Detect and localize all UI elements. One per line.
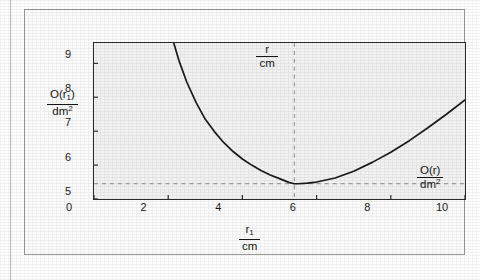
- minimum-y-annotation-denominator: dm2: [417, 177, 443, 190]
- y-axis-tick-label: 6: [51, 151, 71, 163]
- x-axis-tick-marks: [94, 195, 465, 199]
- y-axis-tick-marks: [94, 63, 98, 199]
- x-axis-label: r1 cm: [239, 223, 260, 252]
- x-axis-tick-label: 8: [358, 201, 376, 213]
- plot-area: [93, 42, 466, 200]
- figure-container: 56789 0246810 O(r1) dm2 r1 cm r cm O(r) …: [24, 9, 465, 255]
- y-axis-tick-label: 7: [51, 116, 71, 128]
- x-axis-tick-label: 4: [209, 201, 227, 213]
- y-axis-tick-label: 9: [51, 48, 71, 60]
- chart-canvas: [94, 43, 465, 199]
- page-margin-rule: [10, 0, 11, 280]
- y-axis-label-numerator: O(r1): [47, 88, 78, 103]
- x-axis-label-numerator: r1: [239, 223, 260, 238]
- y-axis-tick-label: 5: [51, 185, 71, 197]
- minimum-y-annotation-numerator: O(r): [417, 164, 443, 176]
- x-axis-label-denominator: cm: [239, 239, 260, 252]
- x-axis-tick-label: 6: [284, 201, 302, 213]
- minimum-y-annotation-label: O(r) dm2: [417, 164, 443, 191]
- x-axis-tick-label: 10: [433, 201, 451, 213]
- x-axis-tick-label: 0: [60, 201, 78, 213]
- y-axis-label-denominator: dm2: [47, 104, 78, 117]
- y-axis-label: O(r1) dm2: [47, 88, 78, 117]
- minimum-x-annotation-label: r cm: [256, 43, 277, 70]
- minimum-x-annotation-denominator: cm: [256, 56, 277, 69]
- x-axis-tick-label: 2: [135, 201, 153, 213]
- minimum-x-annotation-numerator: r: [256, 43, 277, 55]
